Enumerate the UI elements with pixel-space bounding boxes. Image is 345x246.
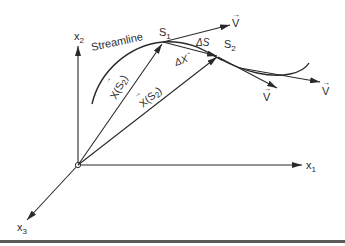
position-vector-upper-label: X(S2): [107, 73, 131, 102]
streamline-curve: [92, 42, 309, 104]
x2-axis-label: x2: [74, 30, 85, 45]
delta-s-label: ΔS: [195, 37, 210, 48]
point-s1-label: S1: [159, 26, 171, 41]
point-s2-label: S2: [224, 38, 236, 53]
arrow-over-v2: →: [263, 84, 271, 93]
x3-axis-label: x3: [17, 221, 28, 236]
arrow-over-v1: →: [232, 10, 240, 19]
x1-axis-label: x1: [306, 159, 317, 174]
streamline-diagram: x2 x1 x3 Streamline X(S2) → X(S2) → S1 S…: [0, 0, 345, 246]
bottom-rule: [0, 240, 345, 243]
arrow-over-upper: →: [103, 75, 112, 84]
position-vector-lower-label: X(S2): [137, 84, 166, 111]
x3-axis: [27, 165, 78, 220]
position-vector-lower: [78, 57, 217, 165]
arrow-over-v3: →: [322, 78, 330, 87]
